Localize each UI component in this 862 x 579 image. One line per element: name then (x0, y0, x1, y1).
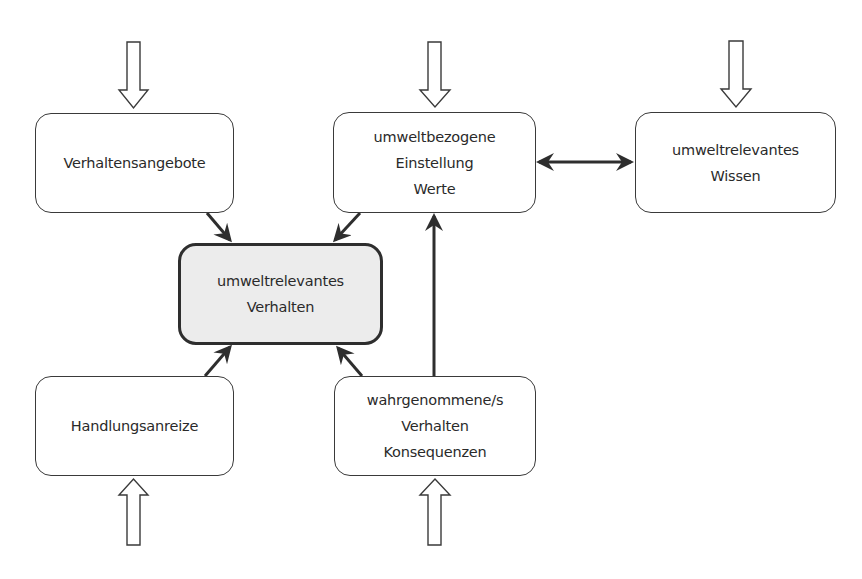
node-label: Einstellung (396, 150, 474, 176)
input-arrow-verhaltensangebote-icon (119, 42, 148, 108)
node-label: umweltrelevantes (217, 268, 344, 294)
node-label: Verhaltensangebote (63, 150, 205, 176)
arrow-anreize-to-verhalten (205, 347, 230, 376)
diagram-connectors (0, 0, 862, 579)
arrow-einstellung-to-verhalten (335, 213, 360, 240)
node-label: Verhalten (401, 413, 469, 439)
node-label: wahrgenommene/s (367, 387, 504, 413)
node-label: umweltbezogene (374, 124, 496, 150)
node-verhaltensangebote: Verhaltensangebote (35, 113, 234, 213)
arrow-konsequenzen-to-verhalten (338, 348, 362, 376)
input-arrow-handlungsanreize-icon (119, 479, 148, 545)
arrow-angebote-to-verhalten (207, 213, 230, 240)
node-label: Konsequenzen (383, 439, 486, 465)
node-konsequenzen: wahrgenommene/s Verhalten Konsequenzen (334, 376, 536, 476)
node-einstellung-werte: umweltbezogene Einstellung Werte (333, 112, 536, 213)
node-label: Werte (414, 176, 456, 202)
input-arrow-konsequenzen-icon (420, 479, 450, 545)
node-label: Wissen (710, 163, 760, 189)
node-handlungsanreize: Handlungsanreize (35, 376, 234, 476)
node-label: Handlungsanreize (71, 413, 198, 439)
node-label: Verhalten (247, 294, 315, 320)
node-label: umweltrelevantes (672, 137, 799, 163)
input-arrow-einstellung-icon (420, 42, 450, 107)
node-umweltrelevantes-verhalten: umweltrelevantes Verhalten (178, 243, 383, 345)
node-wissen: umweltrelevantes Wissen (635, 112, 836, 213)
input-arrow-wissen-icon (721, 41, 751, 107)
